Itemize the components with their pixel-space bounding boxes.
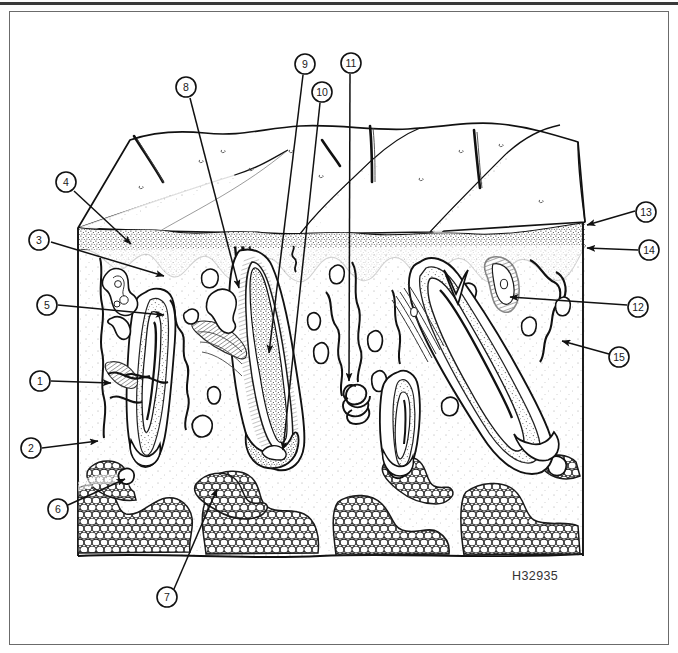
callout-circle-3 [29, 230, 49, 250]
callout-circle-6 [48, 499, 68, 519]
leader-14 [587, 248, 638, 250]
callout-circle-1 [30, 371, 50, 391]
leader-13 [587, 211, 635, 225]
callout-circle-13 [636, 202, 656, 222]
callout-circle-2 [21, 438, 41, 458]
skin-surface-top [78, 123, 585, 238]
leader-11 [349, 74, 350, 381]
callout-circle-5 [37, 295, 57, 315]
callout-circle-8 [176, 77, 196, 97]
callout-circle-7 [157, 587, 177, 607]
skin-cross-section-illustration [0, 0, 678, 653]
callout-circle-10 [312, 82, 332, 102]
callout-circle-4 [56, 172, 76, 192]
callout-circle-11 [341, 53, 361, 73]
callout-circle-15 [609, 347, 629, 367]
figure-page: 1 2 3 4 5 6 7 8 9 10 11 12 13 14 15 H329… [0, 0, 678, 653]
callout-circle-9 [295, 54, 315, 74]
callout-circle-12 [628, 297, 648, 317]
figure-code-label: H32935 [512, 569, 558, 583]
callout-circle-14 [639, 240, 659, 260]
hair-follicle-middle-right [380, 371, 420, 478]
